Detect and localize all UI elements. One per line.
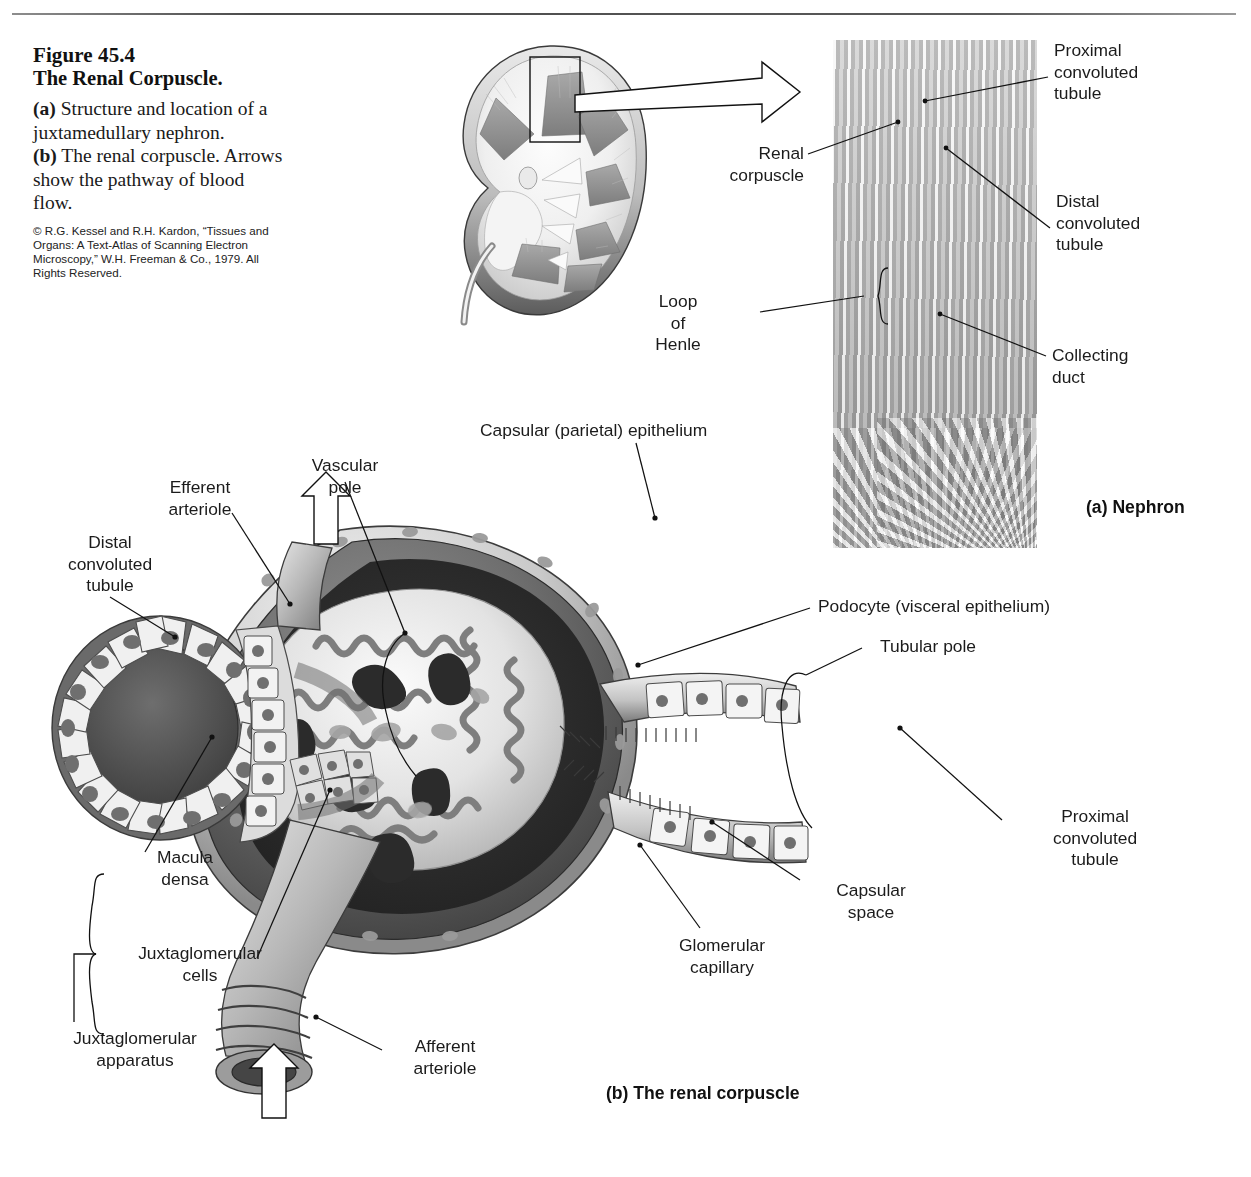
figure-page: Figure 45.4 The Renal Corpuscle. (a) Str… [0,0,1251,1177]
label-collecting-duct-a: Collecting duct [1052,345,1128,388]
part-a-text: Structure and location of a juxtamedulla… [33,98,267,143]
figure-description: (a) Structure and location of a juxtamed… [33,97,283,215]
label-distal-convoluted-tubule-a: Distal convoluted tubule [1056,191,1140,256]
label-macula-densa: Macula densa [110,847,260,890]
figure-caption-block: Figure 45.4 The Renal Corpuscle. (a) Str… [33,44,283,280]
figure-title: The Renal Corpuscle. [33,67,283,90]
distal-convoluted-tubule-cross-section [52,616,268,840]
figure-number: Figure 45.4 [33,44,283,67]
label-afferent-arteriole: Afferent arteriole [380,1036,510,1079]
leader-proximal-convoluted-tubule-b [900,728,1002,820]
part-a-marker: (a) [33,98,56,119]
figure-credit: © R.G. Kessel and R.H. Kardon, “Tissues … [33,224,283,281]
label-juxtaglomerular-cells: Juxtaglomerular cells [100,943,300,986]
running-head-ghost [30,0,110,9]
label-distal-convoluted-tubule-b: Distal convoluted tubule [30,532,190,597]
label-podocyte-visceral-epithelium: Podocyte (visceral epithelium) [818,596,1050,618]
label-efferent-arteriole: Efferent arteriole [120,477,280,520]
nephron-micrograph-panel [833,40,1037,548]
label-loop-of-henle-a: Loop of Henle [600,291,756,356]
panel-b-caption: (b) The renal corpuscle [606,1083,800,1104]
part-b-text: The renal corpuscle. Arrows show the pat… [33,145,282,213]
panel-a-caption: (a) Nephron [1086,497,1185,518]
label-tubular-pole: Tubular pole [880,636,976,658]
label-capsular-space: Capsular space [806,880,936,923]
papilla-fan-texture-secondary [877,418,1037,548]
label-juxtaglomerular-apparatus: Juxtaglomerular apparatus [25,1028,245,1071]
label-proximal-convoluted-tubule-a: Proximal convoluted tubule [1054,40,1138,105]
label-vascular-pole: Vascular pole [275,455,415,498]
label-proximal-convoluted-tubule-b: Proximal convoluted tubule [1010,806,1180,871]
part-b-marker: (b) [33,145,57,166]
label-capsular-parietal-epithelium: Capsular (parietal) epithelium [480,420,707,442]
label-renal-corpuscle-a: Renal corpuscle [638,143,804,186]
header-rule [12,13,1236,15]
label-glomerular-capillary: Glomerular capillary [632,935,812,978]
